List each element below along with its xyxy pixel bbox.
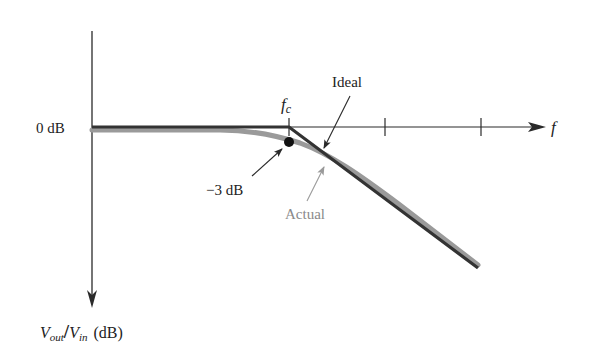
minus-3db-pointer-arrow-icon xyxy=(252,149,282,176)
ideal-label: Ideal xyxy=(332,74,362,90)
y-axis-label: Vout/Vin(dB) xyxy=(40,321,123,343)
y-axis xyxy=(87,31,97,308)
actual-response-curve xyxy=(92,130,478,265)
bode-plot-diagram: 0 dB fc f Ideal −3 dB Actual Vout/Vin(dB… xyxy=(0,0,591,351)
actual-pointer-arrow-icon xyxy=(307,167,324,201)
actual-label: Actual xyxy=(285,206,325,222)
f-axis-label: f xyxy=(551,118,558,137)
ideal-response-curve xyxy=(92,127,478,268)
minus-3db-label: −3 dB xyxy=(206,182,243,198)
fc-label: fc xyxy=(281,95,292,116)
minus-3db-point xyxy=(284,137,294,147)
ideal-pointer-arrow-icon xyxy=(324,96,350,148)
zero-db-label: 0 dB xyxy=(36,120,65,136)
